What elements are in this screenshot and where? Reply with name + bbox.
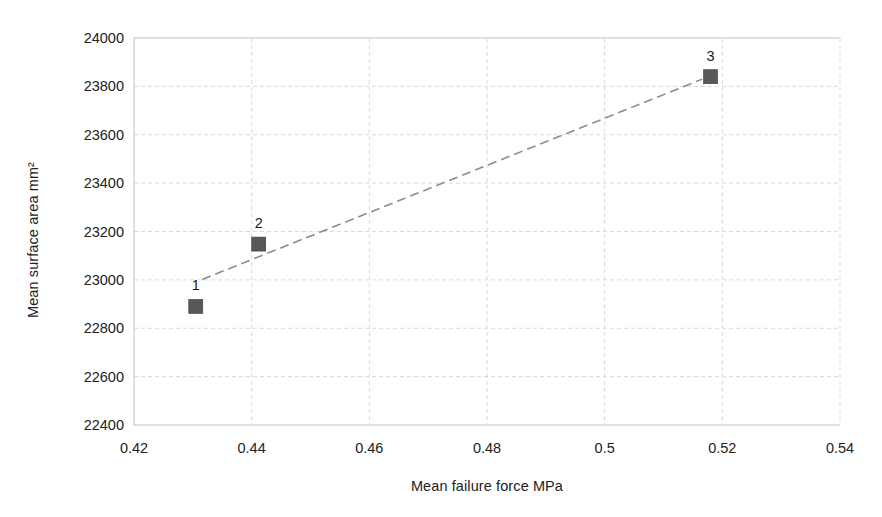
x-tick-label: 0.5 <box>575 441 635 455</box>
x-tick-label: 0.52 <box>692 441 752 455</box>
x-tick-label: 0.48 <box>457 441 517 455</box>
x-tick-label: 0.46 <box>339 441 399 455</box>
x-tick-label: 0.42 <box>104 441 164 455</box>
x-axis-title: Mean failure force MPa <box>134 478 840 494</box>
x-tick-label: 0.44 <box>222 441 282 455</box>
x-axis-tick-labels: 0.420.440.460.480.50.520.54 <box>0 0 882 517</box>
scatter-chart: Mean surface area mm² 240002380023600234… <box>0 0 882 517</box>
x-tick-label: 0.54 <box>810 441 870 455</box>
